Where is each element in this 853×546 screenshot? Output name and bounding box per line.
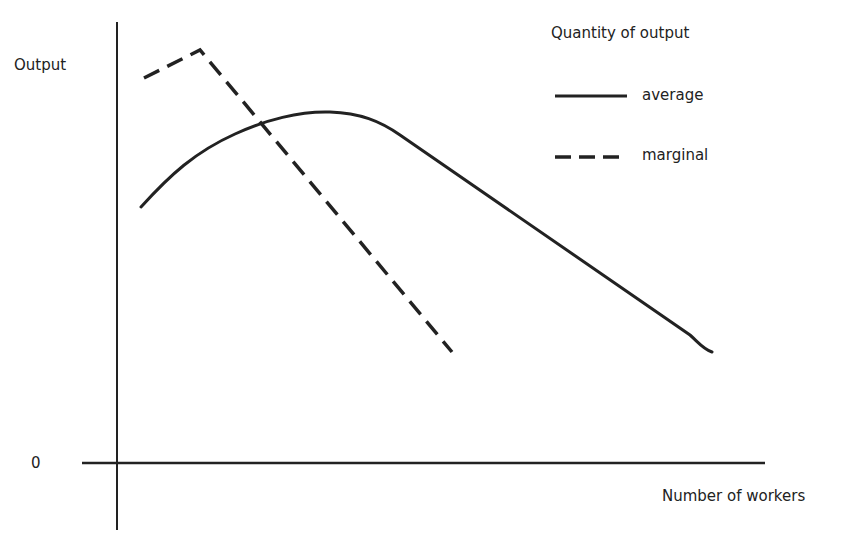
x-axis-label: Number of workers [662,487,805,505]
y-axis-label: Output [14,56,66,74]
marginal-curve [144,50,452,352]
chart-canvas [0,0,853,546]
legend-label-average: average [642,86,703,104]
legend-label-marginal: marginal [642,146,708,164]
average-curve [141,112,712,352]
legend-title: Quantity of output [551,24,689,42]
origin-label: 0 [31,454,41,472]
